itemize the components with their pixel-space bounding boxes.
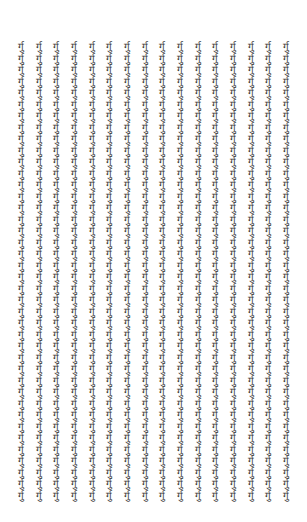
glyph-cell: र्गु [12,398,30,410]
glyph-cell: र्गु [207,248,225,260]
glyph-cell: र्गु [277,53,295,65]
glyph-cell: र्गु [47,64,65,76]
glyph-cell: र्गु [207,363,225,375]
glyph-cell: र्गु [83,294,101,306]
glyph-cell: र्गु [30,294,48,306]
glyph-cell: र्गु [83,386,101,398]
glyph-cell: र्गु [242,133,260,145]
glyph-cell: र्गु [65,306,83,318]
glyph-cell: र्गु [189,179,207,191]
glyph-cell: र्गु [100,398,118,410]
glyph-cell: र्गु [207,110,225,122]
glyph-cell: र्गु [47,432,65,444]
glyph-cell: र्गु [12,214,30,226]
glyph-cell: र्गु [277,202,295,214]
glyph-cell: र्गु [83,225,101,237]
glyph-cell: र्गु [171,294,189,306]
glyph-cell: र्गु [30,202,48,214]
glyph-cell: र्गु [136,490,154,502]
glyph-cell: र्गु [171,179,189,191]
glyph-cell: र्गु [100,110,118,122]
glyph-cell: र्गु [277,478,295,490]
glyph-cell: र्गु [242,122,260,134]
glyph-cell: र्गु [260,363,278,375]
glyph-cell: र्गु [154,340,172,352]
glyph-cell: र्गु [224,352,242,364]
glyph-cell: र्गु [224,133,242,145]
glyph-cell: र्गु [277,122,295,134]
glyph-cell: र्गु [65,202,83,214]
glyph-cell: र्गु [224,294,242,306]
glyph-cell: र्गु [171,329,189,341]
glyph-cell: र्गु [242,294,260,306]
glyph-cell: र्गु [118,122,136,134]
glyph-cell: र्गु [12,375,30,387]
glyph-cell: र्गु [171,409,189,421]
glyph-cell: र्गु [30,432,48,444]
glyph-cell: र्गु [30,478,48,490]
glyph-cell: र्गु [12,179,30,191]
glyph-cell: र्गु [118,191,136,203]
glyph-cell: र्गु [100,329,118,341]
glyph-cell: र्गु [12,41,30,53]
glyph-cell: र्गु [65,490,83,502]
glyph-cell: र्गु [83,156,101,168]
glyph-cell: र्गु [30,122,48,134]
glyph-cell: र्गु [260,260,278,272]
glyph-cell: र्गु [224,76,242,88]
glyph-cell: र्गु [30,237,48,249]
glyph-cell: र्गु [83,455,101,467]
glyph-cell: र्गु [260,248,278,260]
glyph-cell: र्गु [100,271,118,283]
glyph-cell: र्गु [118,168,136,180]
glyph-cell: र्गु [30,87,48,99]
glyph-cell: र्गु [260,432,278,444]
glyph-cell: र्गु [65,110,83,122]
glyph-cell: र्गु [154,363,172,375]
glyph-cell: र्गु [171,363,189,375]
glyph-cell: र्गु [189,398,207,410]
glyph-cell: र्गु [136,214,154,226]
glyph-cell: र्गु [207,145,225,157]
glyph-cell: र्गु [136,306,154,318]
glyph-cell: र्गु [224,375,242,387]
glyph-cell: र्गु [30,490,48,502]
glyph-cell: र्गु [100,455,118,467]
glyph-cell: र्गु [224,421,242,433]
glyph-cell: र्गु [224,168,242,180]
glyph-cell: र्गु [83,248,101,260]
glyph-cell: र्गु [277,294,295,306]
glyph-cell: र्गु [136,478,154,490]
glyph-cell: र्गु [12,294,30,306]
glyph-cell: र्गु [277,317,295,329]
glyph-cell: र्गु [65,53,83,65]
glyph-cell: र्गु [83,53,101,65]
glyph-cell: र्गु [171,191,189,203]
glyph-cell: र्गु [65,191,83,203]
glyph-cell: र्गु [65,340,83,352]
glyph-cell: र्गु [136,41,154,53]
glyph-cell: र्गु [83,352,101,364]
glyph-cell: र्गु [260,421,278,433]
glyph-cell: र्गु [154,202,172,214]
glyph-cell: र्गु [47,133,65,145]
glyph-cell: र्गु [189,41,207,53]
glyph-cell: र्गु [189,214,207,226]
glyph-cell: र्गु [154,156,172,168]
glyph-cell: र्गु [65,283,83,295]
glyph-cell: र्गु [242,421,260,433]
glyph-cell: र्गु [47,329,65,341]
glyph-cell: र्गु [207,237,225,249]
glyph-cell: र्गु [100,467,118,479]
glyph-cell: र्गु [171,421,189,433]
glyph-cell: र्गु [118,306,136,318]
glyph-cell: र्गु [189,145,207,157]
glyph-cell: र्गु [136,110,154,122]
glyph-cell: र्गु [154,490,172,502]
glyph-cell: र्गु [118,214,136,226]
glyph-cell: र्गु [171,225,189,237]
glyph-cell: र्गु [47,306,65,318]
glyph-cell: र्गु [136,352,154,364]
glyph-cell: र्गु [154,306,172,318]
glyph-cell: र्गु [154,352,172,364]
